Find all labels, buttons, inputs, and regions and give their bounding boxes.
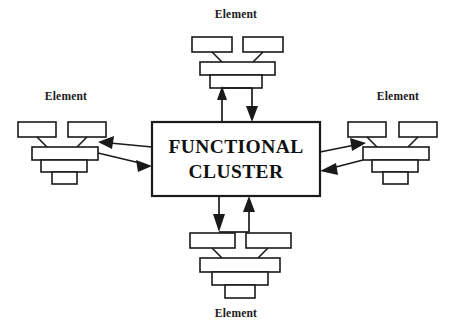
element-top-connector-left [212, 52, 222, 62]
element-right-connector-left [367, 137, 377, 147]
element-top-bar [200, 62, 275, 75]
connection-left-in [98, 136, 152, 149]
cluster-label-line2: CLUSTER [189, 161, 284, 182]
element-bottom-bar [200, 258, 280, 272]
element-right-bar [363, 147, 429, 160]
element-left-bar [32, 147, 98, 160]
element-top-leaf-right [243, 37, 283, 52]
element-left-label: Element [45, 90, 87, 102]
diagram-canvas: Element Element [0, 0, 463, 327]
connection-left-out-line [98, 153, 140, 163]
cluster-box [152, 122, 320, 196]
element-top-leaf-left [192, 37, 232, 52]
element-right-label: Element [377, 90, 419, 102]
element-top-base [210, 75, 262, 88]
element-top-label: Element [215, 8, 257, 20]
connection-left-out [98, 153, 152, 172]
element-left: Element [18, 90, 106, 184]
element-bottom-connector-left [212, 248, 222, 258]
element-right-leaf-left [348, 122, 386, 137]
cluster-label-line1: FUNCTIONAL [168, 136, 303, 157]
element-top-connector-right [253, 52, 263, 62]
connection-top-out [246, 88, 258, 122]
functional-cluster-node: FUNCTIONAL CLUSTER [152, 122, 320, 196]
connection-top-out-arrowhead [246, 106, 258, 122]
connection-right-out-arrowhead [320, 163, 338, 175]
element-bottom-leaf-left [190, 233, 235, 248]
element-bottom: Element [190, 233, 291, 319]
element-right-leaf-right [399, 122, 437, 137]
element-bottom-label: Element [215, 307, 257, 319]
connection-left-out-arrowhead [136, 160, 152, 172]
element-right-base [383, 172, 408, 184]
connection-right-out-line [332, 160, 363, 168]
element-left-base [52, 172, 77, 184]
connection-bottom-in-arrowhead [213, 214, 225, 232]
connection-bottom-out-arrowhead [243, 196, 255, 212]
connection-top-in [217, 86, 252, 122]
element-bottom-connector-right [258, 248, 268, 258]
element-right-connector-right [408, 137, 418, 147]
element-right: Element [348, 90, 437, 184]
element-right-mid [372, 160, 418, 172]
connection-left-in-line [110, 143, 152, 147]
element-left-leaf-right [68, 122, 106, 137]
element-left-connector-left [37, 137, 47, 147]
connection-left-in-arrowhead [98, 136, 114, 149]
element-top: Element [192, 8, 283, 88]
element-bottom-mid [212, 272, 268, 285]
element-left-leaf-left [18, 122, 56, 137]
connection-right-in-line [320, 145, 355, 152]
element-left-mid [41, 160, 87, 172]
functional-cluster-diagram: Element Element [0, 0, 463, 327]
connection-right-in [320, 138, 366, 152]
connection-bottom-in [213, 196, 225, 232]
element-bottom-leaf-right [246, 233, 291, 248]
element-bottom-base [225, 285, 255, 298]
connection-right-out [320, 160, 363, 175]
element-left-connector-right [77, 137, 87, 147]
